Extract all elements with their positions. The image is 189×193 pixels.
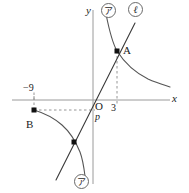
point-b-marker xyxy=(32,108,37,113)
x-tick-label-neg9: −9 xyxy=(23,83,34,93)
x-tick-label-3: 3 xyxy=(111,103,116,113)
curve-label-hyperbola-upper: ア xyxy=(101,3,116,18)
hyperbola-lower-branch xyxy=(34,110,85,176)
y-tick-label-p: p xyxy=(95,112,100,122)
graph-canvas xyxy=(0,0,189,193)
curve-label-line: ℓ xyxy=(128,2,143,17)
curve-label-hyperbola-lower: ア xyxy=(74,174,89,189)
x-axis-label: x xyxy=(172,93,177,104)
y-axis-label: y xyxy=(86,5,91,16)
point-a-label: A xyxy=(123,45,131,56)
point-b-label: B xyxy=(26,119,33,130)
math-figure: x y O 3 −9 p A B ア ℓ ア xyxy=(0,0,189,193)
point-c-marker xyxy=(72,140,77,145)
point-a-marker xyxy=(115,49,120,54)
